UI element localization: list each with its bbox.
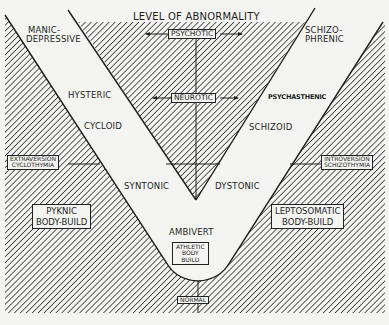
body-build-label: BODY-BUILD bbox=[275, 217, 340, 228]
depressive-label: DEPRESSIVE bbox=[26, 35, 81, 44]
inner-v-hatched-region bbox=[78, 22, 305, 200]
normal-label: NORMAL bbox=[177, 296, 209, 304]
schizoid-label: SCHIZOID bbox=[249, 123, 292, 132]
cyclothymia-label: CYCLOTHYMIA bbox=[10, 162, 56, 168]
neurotic-label: NEUROTIC bbox=[171, 93, 216, 103]
phrenic-label: PHRENIC bbox=[305, 35, 344, 44]
schizothymia-label: SCHIZOTHYMIA bbox=[324, 162, 370, 168]
leptosomatic-label: LEPTOSOMATIC bbox=[275, 206, 340, 217]
hysteric-label: HYSTERIC bbox=[68, 91, 112, 100]
pyknic-body-build-box: PYKNIC BODY-BUILD bbox=[32, 204, 91, 229]
psychotic-label: PSYCHOTIC bbox=[168, 29, 216, 39]
psychasthenic-label: PSYCHASTHENIC bbox=[268, 94, 326, 101]
manic-depressive-label: MANIC- DEPRESSIVE bbox=[28, 26, 81, 44]
ambivert-label: AMBIVERT bbox=[169, 228, 214, 237]
build-label: BUILD bbox=[176, 257, 205, 263]
schizophrenic-label: SCHIZO- PHRENIC bbox=[305, 26, 344, 44]
cycloid-label: CYCLOID bbox=[84, 122, 122, 131]
athletic-body-build-box: ATHLETIC BODY BUILD bbox=[172, 242, 209, 265]
leptosomatic-body-build-box: LEPTOSOMATIC BODY-BUILD bbox=[271, 204, 344, 229]
introversion-schizothymia-box: INTROVERSION SCHIZOTHYMIA bbox=[321, 155, 373, 170]
syntonic-label: SYNTONIC bbox=[124, 182, 169, 191]
diagram-title: LEVEL OF ABNORMALITY bbox=[133, 12, 260, 22]
pyknic-label: PYKNIC bbox=[36, 206, 87, 217]
dystonic-label: DYSTONIC bbox=[215, 182, 260, 191]
body-build-label: BODY-BUILD bbox=[36, 217, 87, 228]
extraversion-cyclothymia-box: EXTRAVERSION CYCLOTHYMIA bbox=[7, 155, 59, 170]
